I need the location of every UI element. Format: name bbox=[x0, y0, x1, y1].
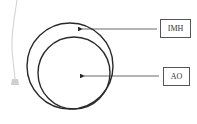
inner-circle bbox=[38, 37, 110, 109]
imh-label: IMH bbox=[168, 24, 184, 33]
catheter-tip-icon bbox=[11, 79, 19, 85]
imh-label-box: IMH bbox=[160, 19, 191, 38]
ao-label-box: AO bbox=[163, 67, 190, 86]
outer-circle bbox=[27, 23, 113, 109]
catheter-line bbox=[12, 0, 17, 80]
ao-label: AO bbox=[171, 72, 183, 81]
